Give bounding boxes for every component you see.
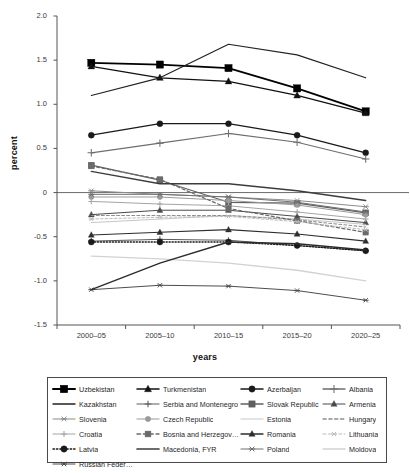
legend-item-label: Estonia <box>267 415 291 424</box>
y-tick-label: -0.5 <box>34 232 47 241</box>
legend-item-croatia[interactable]: Croatia <box>52 427 136 441</box>
legend-key-swatch <box>136 413 160 425</box>
data-point-marker <box>294 132 300 138</box>
legend-item-hungary[interactable]: Hungary <box>322 412 384 426</box>
data-point-marker <box>89 163 95 169</box>
y-tick-label: 1.0 <box>37 99 47 108</box>
legend-item-label: Serbia and Montenegro <box>163 400 238 409</box>
y-tick-label: 0 <box>43 188 47 197</box>
legend-item-kazakhstan[interactable]: Kazakhstan <box>52 397 136 411</box>
series-line <box>91 171 365 200</box>
legend-item-label: Armenia <box>349 400 376 409</box>
legend-key-swatch <box>322 398 346 410</box>
data-point-marker <box>294 288 300 292</box>
data-point-marker <box>226 226 232 231</box>
legend-key-swatch <box>136 398 160 410</box>
legend-key-swatch <box>240 428 264 440</box>
series-line <box>91 133 365 159</box>
data-point-marker <box>363 150 369 156</box>
legend-item-serbia-and-montenegro[interactable]: Serbia and Montenegro <box>136 397 240 411</box>
data-point-marker <box>61 446 67 452</box>
legend-item-uzbekistan[interactable]: Uzbekistan <box>52 382 136 396</box>
data-point-marker <box>61 431 67 437</box>
data-point-marker <box>88 149 95 156</box>
legend-item-label: Slovak Republic <box>267 400 319 409</box>
data-point-marker <box>145 416 150 421</box>
legend-item-slovak-republic[interactable]: Slovak Republic <box>240 397 322 411</box>
data-point-marker <box>294 218 300 224</box>
legend-item-czech-republic[interactable]: Czech Republic <box>136 412 240 426</box>
chart-page: 2.01.51.00.50-0.5-1.0-1.5 2000–052005–10… <box>0 0 410 473</box>
data-point-marker <box>88 199 94 205</box>
legend-item-label: Latvia <box>79 445 98 454</box>
x-tick-label: 2020–25 <box>339 331 393 340</box>
x-axis-title: years <box>0 352 410 362</box>
legend-key-swatch <box>322 383 346 395</box>
series-russian-federation <box>88 283 368 302</box>
y-axis-tick-labels: 2.01.51.00.50-0.5-1.0-1.5 <box>0 0 53 368</box>
legend-grid: UzbekistanTurkmenistanAzerbaijanAlbaniaK… <box>52 382 383 471</box>
data-point-marker <box>249 386 255 392</box>
data-point-marker <box>249 401 255 407</box>
series-line <box>91 66 365 113</box>
legend-item-turkmenistan[interactable]: Turkmenistan <box>136 382 240 396</box>
legend-item-latvia[interactable]: Latvia <box>52 442 136 456</box>
chart-plot-area: 2.01.51.00.50-0.5-1.0-1.5 2000–052005–10… <box>0 0 410 368</box>
legend-item-moldova[interactable]: Moldova <box>322 442 384 456</box>
data-point-marker <box>363 204 369 209</box>
legend-item-estonia[interactable]: Estonia <box>240 412 322 426</box>
legend-item-bosnia-and-herzegovina[interactable]: Bosnia and Herzegovina <box>136 427 240 441</box>
legend-item-russian-federation[interactable]: Russian Federation <box>52 457 136 471</box>
legend-key-swatch <box>52 458 76 470</box>
legend-item-albania[interactable]: Albania <box>322 382 384 396</box>
data-point-marker <box>363 216 369 222</box>
data-point-marker <box>157 177 163 183</box>
data-point-marker <box>330 385 338 393</box>
legend-item-label: Uzbekistan <box>79 385 115 394</box>
data-point-marker <box>145 431 151 437</box>
x-tick-label: 2010–15 <box>202 331 256 340</box>
series-moldova <box>91 256 365 281</box>
legend-item-azerbaijan[interactable]: Azerbaijan <box>240 382 322 396</box>
series-line <box>91 285 365 300</box>
series--bridge <box>91 242 365 290</box>
data-point-marker <box>294 85 301 92</box>
y-tick-label: 1.5 <box>37 55 47 64</box>
legend-key-swatch <box>52 383 76 395</box>
legend-key-swatch <box>136 443 160 455</box>
series-line <box>91 242 365 290</box>
data-point-marker <box>293 139 300 146</box>
legend-item-label: Czech Republic <box>163 415 213 424</box>
legend-key-swatch <box>52 398 76 410</box>
legend-item-label: Slovenia <box>79 415 107 424</box>
y-tick-label: 2.0 <box>37 11 47 20</box>
legend-item-romania[interactable]: Romania <box>240 427 322 441</box>
data-point-marker <box>157 121 163 127</box>
legend-item-label: Albania <box>349 385 373 394</box>
data-point-marker <box>249 447 256 452</box>
legend-key-swatch <box>322 443 346 455</box>
y-axis-title: percent <box>9 123 19 183</box>
legend-item-poland[interactable]: Poland <box>240 442 322 456</box>
data-point-marker <box>89 217 94 221</box>
legend-key-swatch <box>52 413 76 425</box>
data-point-marker <box>225 130 232 137</box>
data-point-marker <box>294 209 300 215</box>
data-point-marker <box>363 248 369 254</box>
data-point-marker <box>295 202 300 207</box>
legend-item-macedonia-fyr[interactable]: Macedonia, FYR <box>136 442 240 456</box>
legend-item-lithuania[interactable]: Lithuania <box>322 427 384 441</box>
legend-item-slovenia[interactable]: Slovenia <box>52 412 136 426</box>
legend-key-swatch <box>322 428 346 440</box>
x-tick-label: 2005–10 <box>133 331 187 340</box>
legend-item-label: Croatia <box>79 430 102 439</box>
legend-item-label: Lithuania <box>349 430 378 439</box>
data-point-marker <box>61 417 68 422</box>
data-point-marker <box>157 283 163 287</box>
series-albania <box>88 130 370 163</box>
series-uzbekistan <box>88 59 370 115</box>
legend-item-label: Bosnia and Herzegovina <box>163 430 240 439</box>
legend-key-swatch <box>52 443 76 455</box>
legend-item-armenia[interactable]: Armenia <box>322 397 384 411</box>
legend-key-swatch <box>322 413 346 425</box>
